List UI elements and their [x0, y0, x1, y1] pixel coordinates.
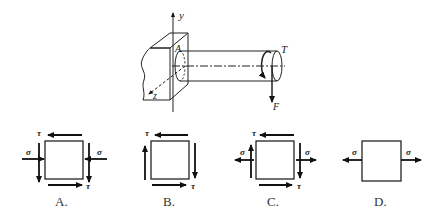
- cantilever-figure: [141, 13, 285, 112]
- option-b-element: [145, 135, 195, 185]
- option-c-label[interactable]: C.: [267, 194, 279, 209]
- option-a-sigma-left: σ: [26, 147, 32, 157]
- option-c-tau-top: τ: [252, 128, 257, 138]
- diagram-canvas: y z A T F τ τ σ σ A. τ τ B. τ τ σ σ C.: [0, 0, 446, 223]
- option-b-tau-top: τ: [145, 128, 150, 138]
- y-axis-label: y: [178, 9, 184, 21]
- z-axis-label: z: [152, 90, 157, 101]
- option-c-sigma-right: σ: [305, 147, 311, 157]
- option-c-element: [235, 135, 316, 185]
- point-a-label: A: [174, 43, 182, 54]
- torque-label: T: [281, 43, 288, 55]
- torque-arrow: [262, 51, 271, 78]
- option-a-element: [22, 135, 107, 185]
- option-d-label[interactable]: D.: [374, 194, 387, 209]
- option-c-tau-bottom: τ: [297, 181, 302, 191]
- option-c-sigma-left: σ: [240, 147, 246, 157]
- force-label: F: [272, 101, 280, 112]
- option-a-label[interactable]: A.: [55, 194, 68, 209]
- option-a-tau-bottom: τ: [86, 181, 91, 191]
- option-b-tau-bottom: τ: [191, 181, 196, 191]
- option-a-tau-top: τ: [37, 128, 42, 138]
- option-d-sigma-right: σ: [406, 147, 412, 157]
- option-d-sigma-left: σ: [352, 147, 358, 157]
- option-a-sigma-right: σ: [97, 147, 103, 157]
- option-b-label[interactable]: B.: [163, 194, 175, 209]
